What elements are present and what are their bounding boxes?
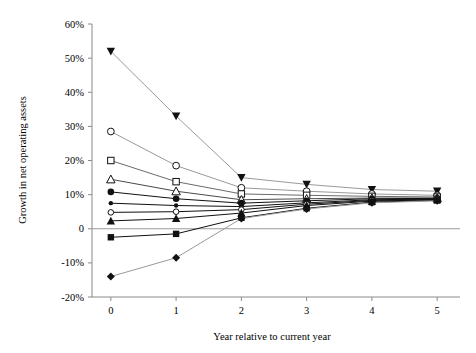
series-0 — [107, 48, 442, 196]
data-point-open-circle — [238, 184, 245, 191]
growth-net-operating-assets-chart: -20%-10%010%20%30%40%50%60% 012345 Year … — [0, 0, 476, 353]
x-axis-title: Year relative to current year — [213, 331, 331, 342]
y-tick-label: 30% — [65, 121, 85, 132]
x-tick-label: 3 — [304, 305, 309, 316]
series-2 — [108, 157, 441, 200]
x-tick-label: 0 — [108, 305, 113, 316]
data-point-open-circle-small — [173, 209, 179, 215]
y-tick-label: -10% — [61, 257, 84, 268]
data-series-layer — [107, 48, 442, 281]
data-point-filled-square — [108, 234, 114, 240]
x-tick-label: 2 — [239, 305, 244, 316]
data-point-open-circle — [107, 128, 114, 135]
x-tick-label: 5 — [435, 305, 440, 316]
series-line — [111, 161, 437, 198]
data-point-open-circle-small — [108, 210, 114, 216]
y-tick-label: -20% — [61, 292, 84, 303]
x-tick-label: 1 — [173, 305, 178, 316]
y-axis-title: Growth in net operating assets — [17, 96, 28, 224]
series-line — [111, 51, 437, 191]
data-point-filled-diamond — [172, 254, 180, 262]
y-axis-ticks: -20%-10%010%20%30%40%50%60% — [61, 19, 92, 303]
data-point-filled-circle — [108, 189, 115, 196]
data-point-small-filled-circle — [109, 201, 113, 205]
y-tick-label: 20% — [65, 155, 85, 166]
y-tick-label: 40% — [65, 87, 85, 98]
y-tick-label: 0 — [79, 223, 84, 234]
chart-container: -20%-10%010%20%30%40%50%60% 012345 Year … — [0, 0, 476, 353]
data-point-open-triangle — [107, 175, 115, 183]
data-point-open-circle — [173, 162, 180, 169]
y-tick-label: 60% — [65, 19, 85, 30]
data-point-filled-circle — [173, 195, 180, 202]
data-point-filled-square — [173, 231, 179, 237]
series-line — [111, 200, 437, 221]
data-point-small-filled-circle — [174, 203, 178, 207]
series-line — [111, 131, 437, 195]
data-point-open-square — [173, 178, 179, 184]
y-tick-label: 50% — [65, 53, 85, 64]
x-tick-label: 4 — [369, 305, 375, 316]
x-axis-ticks: 012345 — [108, 297, 440, 316]
data-point-open-square — [108, 157, 114, 163]
data-point-filled-diamond — [107, 273, 115, 281]
y-tick-label: 10% — [65, 189, 85, 200]
series-4 — [108, 189, 441, 207]
